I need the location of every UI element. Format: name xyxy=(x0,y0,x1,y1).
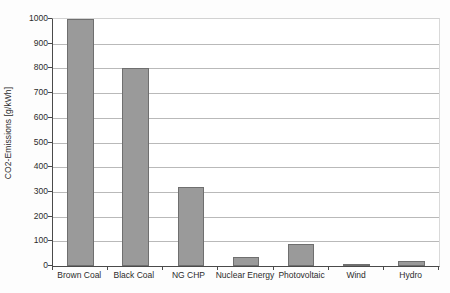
y-axis-tick-mark xyxy=(48,117,52,118)
bar-slot xyxy=(329,19,384,266)
y-axis-tick-label: 700 xyxy=(34,87,48,97)
y-axis-title-text: CO2-Emissions [g/kWh] xyxy=(3,87,13,179)
y-axis-tick-mark xyxy=(48,92,52,93)
y-axis-tick-mark xyxy=(48,43,52,44)
y-axis-tick-label: 400 xyxy=(34,161,48,171)
bar[interactable] xyxy=(233,257,259,266)
y-axis-tick-label: 500 xyxy=(34,137,48,147)
bar-slot xyxy=(384,19,439,266)
y-axis-tick-mark xyxy=(48,166,52,167)
bar-slot xyxy=(108,19,163,266)
y-axis-title: CO2-Emissions [g/kWh] xyxy=(0,0,16,266)
y-axis-tick-label: 100 xyxy=(34,235,48,245)
y-axis-tick-label: 600 xyxy=(34,112,48,122)
bar-slot xyxy=(163,19,218,266)
bar[interactable] xyxy=(67,19,93,266)
y-axis-tick-mark xyxy=(48,142,52,143)
y-axis-tick-label: 900 xyxy=(34,38,48,48)
plot-area xyxy=(52,18,440,267)
y-axis-tick-label: 800 xyxy=(34,62,48,72)
y-axis-tick-mark xyxy=(48,240,52,241)
bar-slot xyxy=(274,19,329,266)
y-axis-tick-label-group: 01002003004005006007008009001000 xyxy=(16,0,52,293)
y-axis-tick-mark xyxy=(48,18,52,19)
bar-slot xyxy=(218,19,273,266)
bar[interactable] xyxy=(122,68,148,266)
bar[interactable] xyxy=(288,244,314,266)
x-axis-tick-label-hydro: Hydro xyxy=(383,270,438,286)
bar-chart-figure: CO2-Emissions [g/kWh] 010020030040050060… xyxy=(0,0,450,293)
y-axis-tick-label: 200 xyxy=(34,211,48,221)
x-axis-tick-label-group: Brown CoalBlack CoalNG CHPNuclear Energy… xyxy=(52,270,438,286)
y-axis-tick-mark xyxy=(48,216,52,217)
x-axis-tick-label-ng-chp: NG CHP xyxy=(161,270,216,286)
x-axis-tick-label-photovoltaic: Photovoltaic xyxy=(274,270,329,286)
y-axis-tick-mark xyxy=(48,191,52,192)
x-axis-tick-label-black-coal: Black Coal xyxy=(107,270,162,286)
x-axis-tick-mark xyxy=(438,266,439,270)
y-axis-tick-label: 300 xyxy=(34,186,48,196)
y-axis-tick-mark xyxy=(48,265,52,266)
y-axis-tick-label: 1000 xyxy=(29,13,48,23)
x-axis-tick-label-nuclear-energy: Nuclear Energy xyxy=(216,270,275,286)
bars-layer xyxy=(53,19,439,266)
bar[interactable] xyxy=(178,187,204,266)
bar-slot xyxy=(53,19,108,266)
x-axis-tick-label-wind: Wind xyxy=(329,270,384,286)
x-axis-tick-label-brown-coal: Brown Coal xyxy=(52,270,107,286)
y-axis-tick-mark xyxy=(48,67,52,68)
